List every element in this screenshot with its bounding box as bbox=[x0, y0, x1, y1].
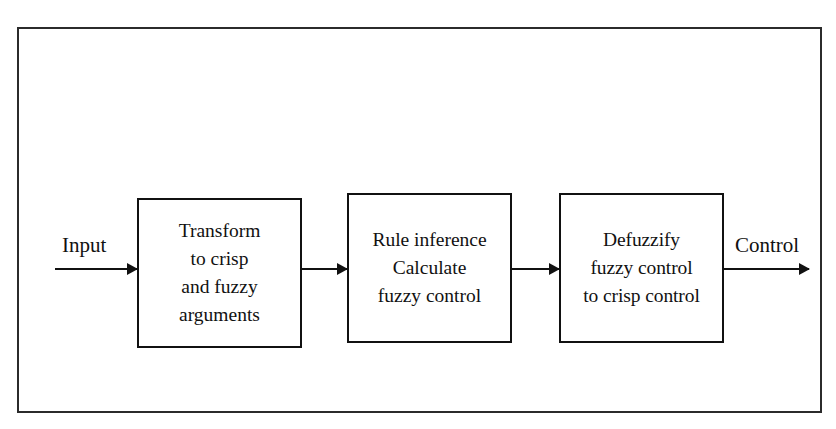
block-text-line: fuzzy control bbox=[590, 254, 692, 282]
block-text-line: fuzzy control bbox=[378, 282, 481, 310]
block-text-line: arguments bbox=[179, 301, 260, 329]
process-block-defuzzify: Defuzzify fuzzy control to crisp control bbox=[559, 193, 724, 343]
block-text-line: Defuzzify bbox=[603, 226, 680, 254]
control-output-arrow-icon bbox=[724, 268, 809, 270]
block-text-line: Rule inference bbox=[372, 226, 486, 254]
transform-to-inference-arrow-icon bbox=[302, 268, 347, 270]
block-text-line: and fuzzy bbox=[181, 273, 257, 301]
block-text-line: Transform bbox=[179, 217, 261, 245]
figure-frame: Input Transform to crisp and fuzzy argum… bbox=[17, 27, 822, 413]
inference-to-defuzzify-arrow-icon bbox=[512, 268, 559, 270]
process-block-rule-inference: Rule inference Calculate fuzzy control bbox=[347, 193, 512, 343]
block-text-line: to crisp control bbox=[583, 282, 699, 310]
control-flow-label: Control bbox=[735, 235, 799, 256]
block-text-line: to crisp bbox=[191, 245, 249, 273]
block-text-line: Calculate bbox=[393, 254, 467, 282]
input-arrow-icon bbox=[55, 268, 137, 270]
process-block-transform: Transform to crisp and fuzzy arguments bbox=[137, 198, 302, 348]
input-flow-label: Input bbox=[62, 235, 106, 256]
